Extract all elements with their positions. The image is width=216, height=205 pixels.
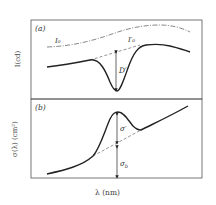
panel-a-frame [31, 20, 202, 99]
depth-label: D′ [118, 66, 127, 75]
panel-b-frame [31, 99, 202, 178]
panel-a-label: (a) [35, 24, 45, 33]
x-axis-label: λ (nm) [95, 188, 120, 197]
panel-a-y-axis-label: I(cd) [14, 44, 22, 74]
panel-b-label: (b) [35, 103, 46, 112]
incident-label: I₀ [54, 37, 61, 45]
background-label: σb [120, 160, 128, 169]
incident-intensity-curve [47, 25, 190, 47]
panel-b-y-axis-label: σ(λ) (cm²) [11, 114, 19, 164]
absorption-diagram: (a) I₀ I′₀ D′ (b) σ′ σb [0, 0, 216, 205]
baseline-label: I′₀ [127, 36, 135, 44]
differential-label: σ′ [120, 125, 127, 133]
cross-section-curve [47, 106, 188, 174]
